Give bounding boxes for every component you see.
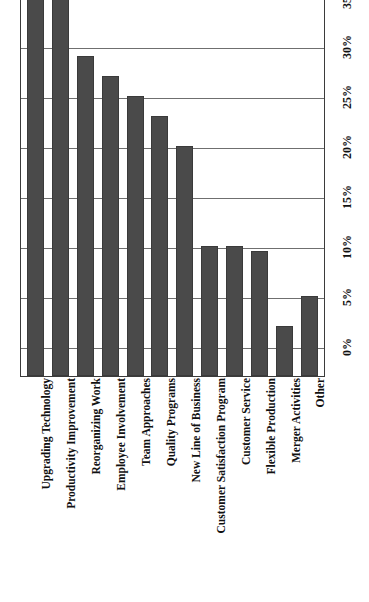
bar	[127, 96, 144, 376]
plot-area	[20, 0, 325, 377]
x-tick: Customer Service	[222, 378, 247, 600]
y-tick-label: 5%	[340, 277, 355, 317]
y-tick-label: 20%	[340, 127, 355, 167]
x-tick: Upgrading Technology	[23, 378, 48, 600]
x-tick: Quality Programs	[147, 378, 172, 600]
bar	[102, 76, 119, 376]
x-tick: Employee Involvement	[98, 378, 123, 600]
bar	[151, 116, 168, 376]
bar	[226, 246, 243, 376]
x-tick: Reorganizing Work	[73, 378, 98, 600]
x-tick: Customer Satisfaction Program	[197, 378, 222, 600]
x-axis: Upgrading TechnologyProductivity Improve…	[20, 378, 325, 602]
x-tick: Productivity Improvement	[48, 378, 73, 600]
x-tick: New Line of Business	[172, 378, 197, 600]
x-tick: Flexible Production	[247, 378, 272, 600]
chart-figure: Change Management Issues Due to Employee…	[0, 0, 369, 602]
y-tick-label: 25%	[340, 77, 355, 117]
bar	[301, 296, 318, 376]
y-tick-label: 30%	[340, 27, 355, 67]
x-tick: Merger Activities	[272, 378, 297, 600]
bar	[201, 246, 218, 376]
bar	[251, 251, 268, 376]
bar	[77, 56, 94, 376]
y-tick-label: 10%	[340, 227, 355, 267]
bar	[27, 0, 44, 376]
x-tick: Other	[297, 378, 322, 600]
x-tick-label: Other	[314, 378, 326, 407]
bar-series	[21, 0, 324, 376]
x-tick: Team Approaches	[123, 378, 148, 600]
bar	[52, 0, 69, 376]
y-tick-label: 35%	[340, 0, 355, 17]
y-axis: 0%5%10%15%20%25%30%35%	[325, 0, 369, 377]
y-tick-label: 0%	[340, 327, 355, 367]
bar	[276, 326, 293, 376]
y-tick-label: 15%	[340, 177, 355, 217]
bar	[176, 146, 193, 376]
